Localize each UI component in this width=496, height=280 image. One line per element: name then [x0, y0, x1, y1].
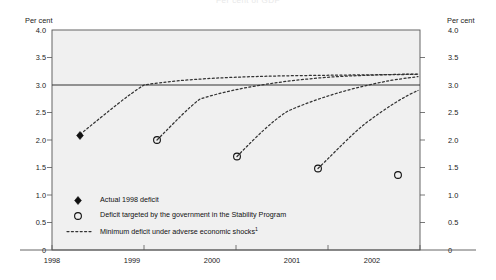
legend-label-actual-deficit: Actual 1998 deficit	[100, 195, 159, 204]
chart-figure: Per cent of GDP Per cent Per cent 4.0 3.…	[0, 0, 496, 280]
legend-label-minimum-deficit-text: Minimum deficit under adverse economic s…	[100, 227, 255, 236]
legend-footnote-marker: 1	[255, 226, 258, 232]
legend-label-targeted-deficit: Deficit targeted by the government in th…	[100, 210, 286, 219]
y-axis-ticks-left	[47, 58, 52, 223]
legend-label-minimum-deficit: Minimum deficit under adverse economic s…	[100, 226, 258, 236]
plot-canvas	[0, 0, 496, 280]
y-axis-ticks-right	[420, 58, 425, 223]
